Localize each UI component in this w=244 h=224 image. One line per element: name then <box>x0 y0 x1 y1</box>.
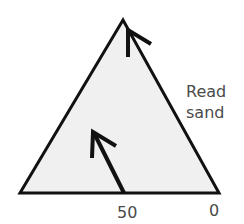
ternary-diagram: Read sand 50 0 <box>0 0 244 224</box>
side-label-line-2: sand <box>186 103 224 122</box>
tick-label-50: 50 <box>117 203 137 222</box>
tick-label-0: 0 <box>209 201 219 220</box>
side-label-line-1: Read <box>186 82 226 101</box>
